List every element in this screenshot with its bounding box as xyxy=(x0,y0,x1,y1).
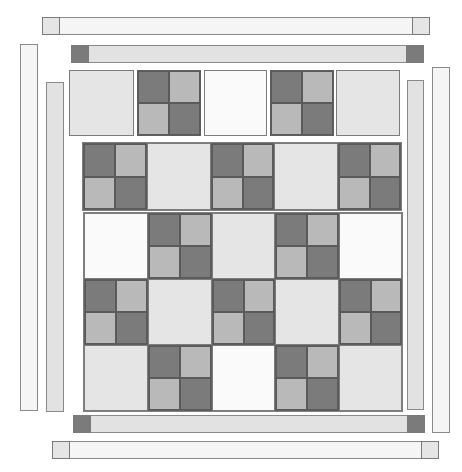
patch-medium xyxy=(243,144,274,177)
light-block xyxy=(147,143,211,210)
patch-medium xyxy=(116,280,147,312)
patch-medium xyxy=(340,312,371,344)
patch-dark xyxy=(84,144,115,177)
patch-dark xyxy=(180,246,211,278)
four-patch-block xyxy=(137,70,201,136)
patch-medium xyxy=(276,246,307,278)
border-strip-inner-top xyxy=(71,45,424,63)
corner-square-left xyxy=(73,415,91,433)
four-patch-block xyxy=(275,213,339,279)
patch-medium xyxy=(115,144,146,177)
light-block xyxy=(339,345,402,411)
patch-dark xyxy=(371,312,402,344)
light-block xyxy=(84,345,148,411)
patch-medium xyxy=(371,280,402,312)
patch-medium xyxy=(213,312,244,344)
patch-medium xyxy=(180,214,211,246)
patch-dark xyxy=(340,280,371,312)
patch-medium xyxy=(307,214,338,246)
patch-medium xyxy=(85,312,116,344)
patch-dark xyxy=(307,378,338,410)
four-patch-block xyxy=(211,143,274,210)
light-block xyxy=(336,70,400,136)
patch-dark xyxy=(149,214,180,246)
four-patch-block xyxy=(338,143,401,210)
four-patch-block xyxy=(270,70,334,136)
patch-medium xyxy=(84,177,115,210)
border-strip-outer-right xyxy=(432,67,450,433)
patch-dark xyxy=(138,71,169,103)
patch-medium xyxy=(307,346,338,378)
patch-medium xyxy=(138,103,169,135)
light-block xyxy=(69,70,134,136)
corner-square-right xyxy=(406,45,424,63)
patch-dark xyxy=(370,177,401,210)
border-strip-outer-left xyxy=(20,44,38,411)
corner-square-right xyxy=(412,17,430,35)
patch-medium xyxy=(180,346,211,378)
patch-medium xyxy=(271,103,302,135)
patch-dark xyxy=(339,144,370,177)
patch-dark xyxy=(276,346,307,378)
four-patch-block xyxy=(275,345,339,411)
patch-dark xyxy=(213,280,244,312)
border-strip-inner-bottom xyxy=(73,415,425,433)
patch-dark xyxy=(276,214,307,246)
patch-dark xyxy=(85,280,116,312)
corner-square-right xyxy=(421,441,439,459)
patch-medium xyxy=(149,246,180,278)
white-block xyxy=(204,70,267,136)
patch-dark xyxy=(243,177,274,210)
corner-square-right xyxy=(407,415,425,433)
patch-medium xyxy=(212,177,243,210)
border-strip-outer-bottom xyxy=(52,441,439,459)
light-block xyxy=(274,143,338,210)
patch-dark xyxy=(244,312,275,344)
patch-medium xyxy=(339,177,370,210)
light-block xyxy=(148,279,212,345)
four-patch-block xyxy=(212,279,275,345)
patch-dark xyxy=(116,312,147,344)
patch-dark xyxy=(149,346,180,378)
patch-dark xyxy=(271,71,302,103)
white-block xyxy=(84,213,148,279)
light-block xyxy=(212,213,275,279)
four-patch-block xyxy=(84,279,148,345)
white-block xyxy=(212,345,275,411)
patch-medium xyxy=(276,378,307,410)
patch-dark xyxy=(212,144,243,177)
patch-medium xyxy=(169,71,200,103)
border-strip-inner-left xyxy=(46,82,64,412)
four-patch-block xyxy=(339,279,402,345)
four-patch-block xyxy=(83,143,147,210)
patch-dark xyxy=(169,103,200,135)
border-strip-outer-top xyxy=(42,17,430,35)
patch-medium xyxy=(302,71,333,103)
patch-medium xyxy=(370,144,401,177)
corner-square-left xyxy=(42,17,60,35)
patch-medium xyxy=(244,280,275,312)
corner-square-left xyxy=(52,441,70,459)
patch-dark xyxy=(302,103,333,135)
border-strip-inner-right xyxy=(407,80,424,410)
patch-dark xyxy=(307,246,338,278)
white-block xyxy=(339,213,402,279)
patch-dark xyxy=(115,177,146,210)
four-patch-block xyxy=(148,213,212,279)
light-block xyxy=(275,279,339,345)
corner-square-left xyxy=(71,45,89,63)
four-patch-block xyxy=(148,345,212,411)
patch-medium xyxy=(149,378,180,410)
patch-dark xyxy=(180,378,211,410)
